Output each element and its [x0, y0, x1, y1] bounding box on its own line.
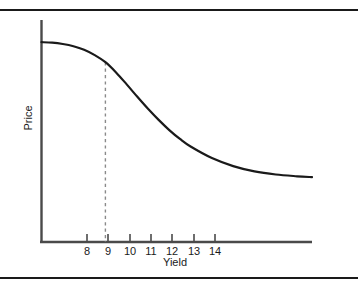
x-axis-title: Yield: [85, 256, 265, 269]
price-yield-curve: [42, 42, 313, 177]
figure-container: 8 9 10 11 12 13 14 Yield Price: [0, 0, 358, 288]
y-axis-title: Price: [22, 88, 34, 148]
